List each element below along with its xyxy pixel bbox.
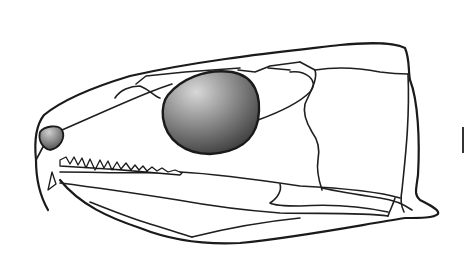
lower-fang xyxy=(48,172,56,190)
suture-line xyxy=(90,202,192,237)
suture-line xyxy=(36,145,44,160)
suture-line xyxy=(315,68,408,74)
skull-drawing xyxy=(0,0,465,270)
skull-diagram xyxy=(0,0,465,270)
suture-line xyxy=(115,86,160,98)
suture-line xyxy=(401,74,408,212)
edge-mark xyxy=(462,127,464,153)
suture-line xyxy=(192,218,300,237)
suture-line xyxy=(62,84,172,130)
orbit xyxy=(163,71,259,154)
suture-line xyxy=(300,62,322,190)
suture-line xyxy=(238,62,300,72)
suture-line xyxy=(60,172,400,198)
suture-line xyxy=(268,68,290,70)
external-naris xyxy=(39,126,63,150)
